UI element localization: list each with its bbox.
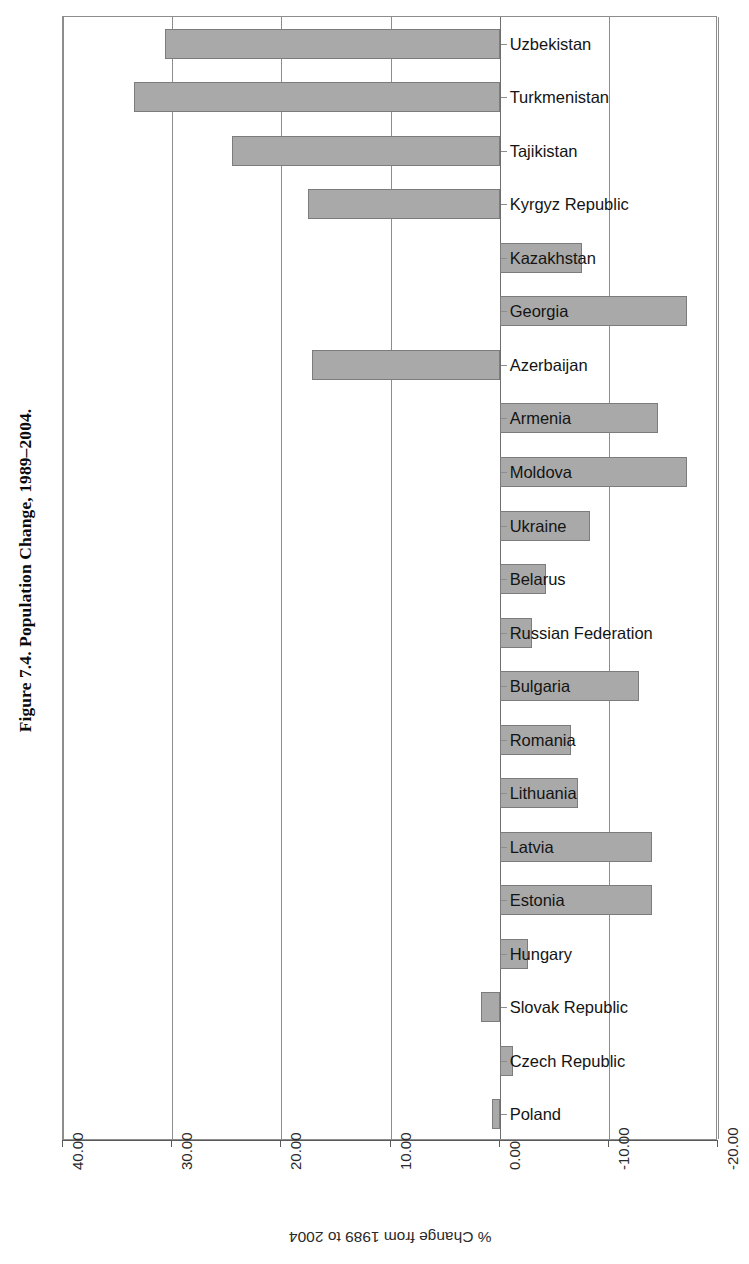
category-tick (501, 311, 507, 312)
category-tick (501, 418, 507, 419)
bar-row (63, 939, 716, 969)
category-tick (501, 258, 507, 259)
x-axis-title: % Change from 1989 to 2004 (289, 1228, 492, 1246)
x-axis-title-container: % Change from 1989 to 2004 (62, 1222, 718, 1252)
x-tick-label: 40.00 (69, 1150, 86, 1170)
category-label-kazakhstan: Kazakhstan (510, 250, 596, 267)
bar-row (63, 403, 716, 433)
category-label-czech-republic: Czech Republic (510, 1053, 626, 1070)
category-label-georgia: Georgia (510, 303, 569, 320)
bar-row (63, 243, 716, 273)
category-label-moldova: Moldova (510, 464, 572, 481)
category-tick (501, 900, 507, 901)
bar-azerbaijan[interactable] (312, 350, 500, 380)
bar-row (63, 725, 716, 755)
category-tick (501, 954, 507, 955)
x-tick-mark (499, 1140, 500, 1147)
chart-plot-inner: UzbekistanTurkmenistanTajikistanKyrgyz R… (63, 17, 716, 1139)
figure-title-container: Figure 7.4. Population Change, 1989–2004… (0, 0, 52, 1140)
category-label-bulgaria: Bulgaria (510, 678, 571, 695)
bar-row (63, 1099, 716, 1129)
x-tick-label: 10.00 (397, 1150, 414, 1170)
bar-kyrgyz-republic[interactable] (308, 189, 500, 219)
category-tick (501, 686, 507, 687)
category-label-estonia: Estonia (510, 892, 565, 909)
category-label-ukraine: Ukraine (510, 518, 567, 535)
bar-poland[interactable] (492, 1099, 500, 1129)
category-label-lithuania: Lithuania (510, 785, 577, 802)
category-label-azerbaijan: Azerbaijan (510, 357, 588, 374)
bar-row (63, 832, 716, 862)
bar-row (63, 564, 716, 594)
category-tick (501, 1007, 507, 1008)
x-tick-mark (717, 1140, 718, 1147)
bar-row (63, 778, 716, 808)
category-tick (501, 44, 507, 45)
category-label-armenia: Armenia (510, 410, 571, 427)
bar-row (63, 671, 716, 701)
bar-row (63, 136, 716, 166)
category-tick (501, 365, 507, 366)
category-tick (501, 526, 507, 527)
x-tick-mark (280, 1140, 281, 1147)
category-tick (501, 847, 507, 848)
category-tick (501, 204, 507, 205)
category-label-russian-federation: Russian Federation (510, 625, 653, 642)
bar-row (63, 457, 716, 487)
category-label-turkmenistan: Turkmenistan (510, 89, 609, 106)
category-tick (501, 97, 507, 98)
category-tick (501, 793, 507, 794)
category-label-tajikistan: Tajikistan (510, 143, 578, 160)
category-label-belarus: Belarus (510, 571, 566, 588)
category-label-hungary: Hungary (510, 946, 572, 963)
bar-row (63, 885, 716, 915)
category-label-poland: Poland (510, 1106, 561, 1123)
bar-row (63, 511, 716, 541)
gridline-neg20 (718, 17, 719, 1139)
x-tick-mark (62, 1140, 63, 1147)
x-tick-label: 20.00 (287, 1150, 304, 1170)
x-tick-label: -10.00 (615, 1150, 632, 1170)
bar-slovak-republic[interactable] (481, 992, 500, 1022)
category-label-romania: Romania (510, 732, 576, 749)
bar-uzbekistan[interactable] (165, 29, 500, 59)
bar-row (63, 296, 716, 326)
bar-turkmenistan[interactable] (134, 82, 500, 112)
x-tick-label: 0.00 (506, 1150, 523, 1170)
category-label-kyrgyz-republic: Kyrgyz Republic (510, 196, 629, 213)
x-tick-label: -20.00 (724, 1150, 741, 1170)
bar-row (63, 29, 716, 59)
chart-plot-area: UzbekistanTurkmenistanTajikistanKyrgyz R… (62, 16, 717, 1140)
bar-tajikistan[interactable] (232, 136, 500, 166)
bar-row (63, 350, 716, 380)
bar-row (63, 82, 716, 112)
x-tick-mark (171, 1140, 172, 1147)
category-label-slovak-republic: Slovak Republic (510, 999, 628, 1016)
x-tick-mark (608, 1140, 609, 1147)
category-label-latvia: Latvia (510, 839, 554, 856)
category-label-uzbekistan: Uzbekistan (510, 36, 592, 53)
page-title: Figure 7.4. Population Change, 1989–2004… (16, 408, 37, 732)
category-tick (501, 740, 507, 741)
category-tick (501, 1061, 507, 1062)
x-tick-label: 30.00 (178, 1150, 195, 1170)
category-tick (501, 633, 507, 634)
x-tick-mark (390, 1140, 391, 1147)
category-tick (501, 1114, 507, 1115)
category-tick (501, 579, 507, 580)
category-tick (501, 472, 507, 473)
category-tick (501, 151, 507, 152)
